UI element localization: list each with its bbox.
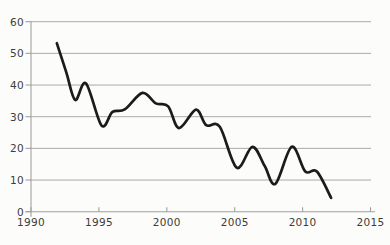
x-tick-label-2015: 2015 [357, 216, 385, 228]
y-tick-label-10: 10 [10, 174, 24, 186]
x-tick-label-2000: 2000 [153, 216, 181, 228]
y-tick-label-30: 30 [10, 111, 24, 123]
declining-trend-line [57, 43, 331, 198]
y-tick-label-60: 60 [10, 16, 24, 28]
y-tick-label-20: 20 [10, 142, 24, 154]
y-tick-label-40: 40 [10, 79, 24, 91]
line-chart-canvas: 0102030405060199019952000200520102015 [0, 0, 390, 245]
x-tick-label-1990: 1990 [17, 216, 45, 228]
line-chart: 0102030405060199019952000200520102015 [0, 0, 390, 245]
x-tick-label-2010: 2010 [289, 216, 317, 228]
x-tick-label-1995: 1995 [85, 216, 113, 228]
x-tick-label-2005: 2005 [221, 216, 249, 228]
y-tick-label-50: 50 [10, 47, 24, 59]
